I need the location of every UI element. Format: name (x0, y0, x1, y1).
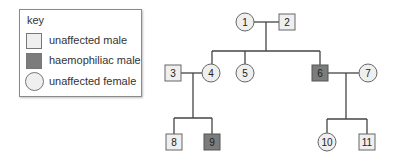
individual-8: 8 (166, 134, 182, 150)
individual-10: 10 (318, 133, 336, 151)
individual-label: 3 (170, 68, 176, 79)
individual-6: 6 (312, 65, 328, 81)
individual-11: 11 (359, 134, 375, 150)
individual-label: 2 (284, 17, 290, 28)
individual-label: 4 (208, 68, 214, 79)
individual-label: 5 (242, 68, 248, 79)
individual-1: 1 (236, 13, 254, 31)
pedigree-chart: 1 2 3 4 5 6 7 8 (0, 0, 401, 161)
individual-label: 6 (317, 68, 323, 79)
individual-label: 11 (362, 137, 373, 148)
individual-label: 9 (209, 137, 215, 148)
individual-label: 8 (171, 137, 177, 148)
individual-label: 10 (321, 137, 333, 148)
individual-5: 5 (236, 64, 254, 82)
individual-label: 1 (242, 17, 248, 28)
individual-4: 4 (202, 64, 220, 82)
individual-2: 2 (279, 14, 295, 30)
pedigree-diagram: key unaffected male haemophiliac male un… (0, 0, 401, 161)
individual-3: 3 (165, 65, 181, 81)
individual-9: 9 (204, 134, 220, 150)
individual-7: 7 (359, 64, 377, 82)
individual-label: 7 (365, 68, 371, 79)
